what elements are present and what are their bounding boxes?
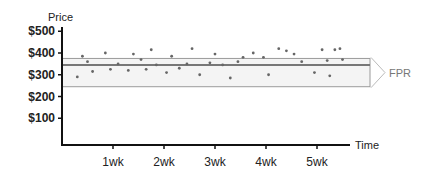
y-tick-label: $100 [28, 111, 55, 125]
data-point [221, 64, 224, 67]
data-point [150, 48, 153, 51]
data-point [326, 59, 329, 62]
data-point [178, 67, 181, 70]
data-point [277, 47, 280, 50]
data-point [333, 48, 336, 51]
data-point [252, 52, 255, 55]
x-tick-label: 1wk [102, 155, 124, 169]
data-point [86, 60, 89, 63]
data-point [145, 68, 148, 71]
data-point [214, 53, 217, 56]
data-point [127, 69, 130, 72]
y-axis-title: Price [48, 11, 73, 23]
data-point [341, 58, 344, 61]
data-point [293, 53, 296, 56]
data-point [198, 73, 201, 76]
data-point [117, 62, 120, 65]
chart-canvas: FPR $500$400$300$200$1001wk2wk3wk4wk5wkP… [0, 0, 429, 181]
x-axis-title: Time [355, 139, 379, 151]
data-point [321, 48, 324, 51]
x-tick-label: 5wk [306, 155, 328, 169]
x-tick-label: 2wk [153, 155, 175, 169]
data-point [91, 70, 94, 73]
data-point [285, 49, 288, 52]
data-point [237, 60, 240, 63]
fpr-label: FPR [389, 67, 411, 79]
x-tick-label: 3wk [204, 155, 226, 169]
data-point [81, 55, 84, 58]
data-point [242, 56, 245, 59]
data-point [328, 74, 331, 77]
band-rect [62, 58, 370, 86]
data-point [229, 77, 232, 80]
y-tick-label: $300 [28, 68, 55, 82]
data-point [267, 73, 270, 76]
y-tick-label: $500 [28, 24, 55, 38]
x-tick-label: 4wk [255, 155, 277, 169]
data-point [140, 58, 143, 61]
chevron-icon [371, 57, 385, 87]
data-point [186, 62, 189, 65]
fpr-band: FPR [62, 57, 411, 87]
data-point [76, 76, 79, 79]
data-point [155, 64, 158, 67]
data-point [339, 47, 342, 50]
data-point [132, 53, 135, 56]
data-point [313, 71, 316, 74]
y-tick-label: $200 [28, 90, 55, 104]
data-point [165, 71, 168, 74]
y-tick-label: $400 [28, 46, 55, 60]
axes [58, 27, 350, 149]
data-point [262, 56, 265, 59]
data-point [109, 68, 112, 71]
data-point [170, 55, 173, 58]
data-point [191, 47, 194, 50]
data-point [209, 61, 212, 64]
data-point [300, 60, 303, 63]
data-point [104, 52, 107, 55]
